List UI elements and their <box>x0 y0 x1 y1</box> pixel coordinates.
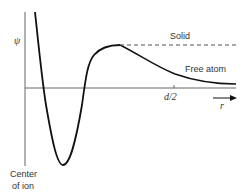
center-label-line1: Center <box>10 170 37 179</box>
r-label: r <box>220 101 224 111</box>
r-arrow-head-icon <box>230 95 237 101</box>
d-half-label: d/2 <box>164 92 177 102</box>
wavefunction-diagram <box>0 0 249 194</box>
center-label-line2: of ion <box>12 182 34 191</box>
psi-label: ψ <box>14 36 20 46</box>
solid-label: Solid <box>170 32 190 41</box>
free-atom-label: Free atom <box>185 65 226 74</box>
